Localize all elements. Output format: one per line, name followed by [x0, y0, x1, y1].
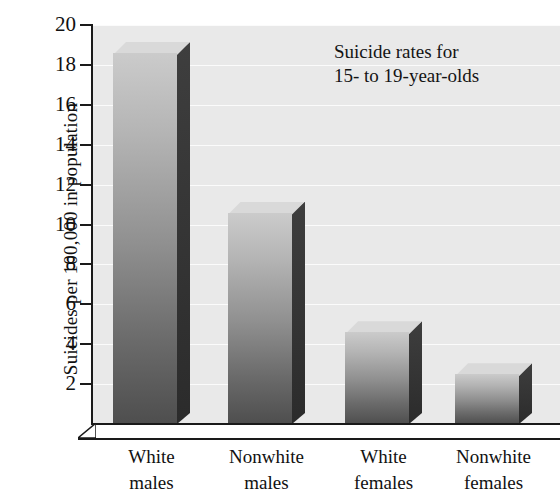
axis-floor-corner: [78, 423, 96, 439]
x-axis-label-line-2: females: [434, 470, 554, 496]
y-tick-label: 4: [32, 333, 76, 354]
plot-area: [92, 25, 560, 424]
bar-side-face: [409, 321, 422, 424]
axis-floor-front-line: [78, 438, 560, 440]
y-tick-mark: [80, 303, 93, 305]
y-tick-mark: [80, 184, 93, 186]
bar: [345, 321, 422, 424]
y-tick-label: 20: [32, 14, 76, 35]
bar-side-face: [292, 202, 305, 424]
x-axis-line: [92, 423, 560, 425]
bar-front-face: [455, 374, 519, 424]
bar-chart-figure: Suicides per 100,000 in population 24681…: [0, 0, 560, 502]
x-axis-label-line-1: Nonwhite: [434, 444, 554, 470]
bar-side-face: [177, 42, 190, 424]
y-tick-label: 8: [32, 253, 76, 274]
bar-front-face: [113, 53, 177, 424]
y-tick-label: 16: [32, 94, 76, 115]
x-axis-label: Whitefemales: [324, 444, 444, 496]
y-tick-mark: [80, 383, 93, 385]
x-axis-label-line-2: females: [324, 470, 444, 496]
x-axis-label-line-1: Nonwhite: [207, 444, 327, 470]
bar: [113, 42, 190, 424]
annotation-line-1: Suicide rates for: [334, 40, 479, 64]
y-tick-label: 6: [32, 293, 76, 314]
x-axis-label-line-1: White: [92, 444, 212, 470]
y-tick-label: 10: [32, 214, 76, 235]
chart-annotation: Suicide rates for15- to 19-year-olds: [334, 40, 479, 88]
y-tick-label: 18: [32, 54, 76, 75]
bar: [228, 202, 305, 424]
bar: [455, 363, 532, 424]
y-tick-mark: [80, 24, 93, 26]
y-tick-mark: [80, 144, 93, 146]
y-tick-label: 12: [32, 174, 76, 195]
bar-front-face: [228, 213, 292, 424]
annotation-line-2: 15- to 19-year-olds: [334, 64, 479, 88]
x-axis-label: Nonwhitemales: [207, 444, 327, 496]
y-tick-mark: [80, 224, 93, 226]
x-axis-label: Whitemales: [92, 444, 212, 496]
x-axis-label-line-2: males: [92, 470, 212, 496]
gridline: [92, 25, 560, 26]
y-tick-mark: [80, 64, 93, 66]
y-tick-labels: 2468101214161820: [28, 0, 76, 502]
bar-front-face: [345, 332, 409, 424]
x-axis-label-line-2: males: [207, 470, 327, 496]
y-tick-label: 14: [32, 134, 76, 155]
y-tick-mark: [80, 343, 93, 345]
y-tick-mark: [80, 263, 93, 265]
x-axis-label: Nonwhitefemales: [434, 444, 554, 496]
x-axis-labels: WhitemalesNonwhitemalesWhitefemalesNonwh…: [92, 444, 560, 502]
y-tick-label: 2: [32, 373, 76, 394]
x-axis-label-line-1: White: [324, 444, 444, 470]
y-tick-mark: [80, 104, 93, 106]
